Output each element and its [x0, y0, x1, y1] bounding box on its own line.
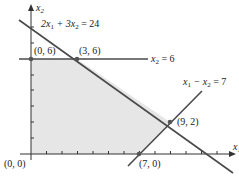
constraint-label-x2-6: x2 = 6 [150, 53, 175, 66]
y-axis-arrow-icon [28, 4, 34, 11]
y-axis-label: x2 [35, 2, 44, 15]
lp-diagram: x2 x1 2x1 + 3x2 = 24 x2 = 6 x1 − x2 = 7 … [0, 0, 239, 177]
vertex-label-0-0: (0, 0) [4, 158, 26, 170]
vertex-label-9-2: (9, 2) [177, 116, 199, 128]
vertex-label-0-6: (0, 6) [34, 45, 56, 57]
constraint-label-2x1-3x2-24: 2x1 + 3x2 = 24 [41, 18, 99, 31]
vertex-3-6 [75, 57, 80, 62]
vertex-label-3-6: (3, 6) [79, 45, 101, 57]
constraint-label-x1-x2-7: x1 − x2 = 7 [182, 76, 226, 89]
vertex-label-7-0: (7, 0) [139, 158, 161, 170]
vertex-7-0 [137, 152, 142, 157]
feasible-region [31, 59, 170, 154]
x-axis-label: x1 [232, 141, 239, 154]
vertex-0-6 [29, 57, 34, 62]
vertex-9-2 [168, 120, 173, 125]
